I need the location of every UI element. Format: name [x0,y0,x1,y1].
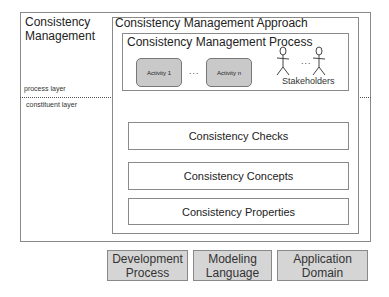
process-layer-label: process layer [24,85,66,92]
foundation-line-1: Development [112,252,183,266]
consistency-properties-box: Consistency Properties [128,198,349,225]
activity-n: Activity n [206,58,252,87]
foundation-line-1: Modeling [206,252,259,266]
stakeholders-label: Stakeholders [282,76,335,86]
activity-ellipsis: ... [189,66,200,76]
constituent-layer-label: constituent layer [26,101,77,108]
modeling-language-box: ModelingLanguage [193,250,272,281]
consistency-management-title: Consistency Management [25,15,95,43]
foundation-line-2: Process [112,266,183,280]
application-domain-box: ApplicationDomain [277,250,368,281]
title-line-2: Management [25,29,95,43]
activity-1: Activity 1 [136,58,182,87]
foundation-line-2: Language [206,266,259,280]
consistency-concepts-box: Consistency Concepts [128,162,349,190]
foundation-line-2: Domain [293,266,352,280]
approach-title: Consistency Management Approach [115,16,308,30]
development-process-box: DevelopmentProcess [107,250,188,281]
stakeholder-ellipsis: ... [301,56,312,66]
title-line-1: Consistency [25,15,95,29]
consistency-checks-box: Consistency Checks [128,122,349,150]
foundation-line-1: Application [293,252,352,266]
